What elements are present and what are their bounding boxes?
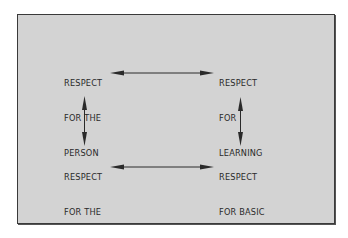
- bidirectional-arrow-icon: [238, 97, 243, 146]
- bidirectional-arrow-icon: [110, 71, 214, 76]
- bidirectional-arrow-icon: [82, 96, 87, 146]
- bidirectional-arrow-icon: [110, 165, 214, 170]
- arrows-layer: [0, 0, 348, 238]
